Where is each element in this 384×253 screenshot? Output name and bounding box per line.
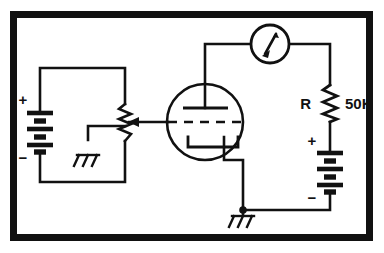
resistor-value-label: 50K [345,95,373,112]
right-battery-minus-label: − [308,189,317,206]
right-battery-plus-label: + [308,132,317,149]
plate-current-meter [251,25,289,63]
schematic-figure: + − [0,0,384,253]
circuit-diagram: + − [0,0,384,253]
left-battery-plus-label: + [19,91,28,108]
left-battery-minus-label: − [19,149,28,166]
page-background [0,0,384,253]
resistor-designator-label: R [300,95,311,112]
